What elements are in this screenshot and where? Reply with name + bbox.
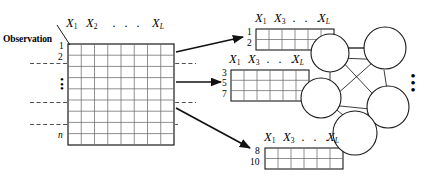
subset-2-header-x3: X3 [248,53,259,66]
subset-1-header-x1: X1 [255,12,266,25]
column-header-ellipsis: · · · [112,20,143,32]
subset-1-header-xl: XL [318,12,330,25]
row-label-2: 2 [58,53,63,63]
network-node [364,27,406,69]
subset-3-header-xl: XL [327,131,339,144]
subset-2-row-label-5: 5 [222,79,227,89]
subset-2-row-label-7: 7 [222,90,227,100]
subset-2-header-x1: X1 [229,53,240,66]
row-label-vertical-ellipsis: ••• [58,77,66,91]
arrow-to-subset-1 [176,37,243,52]
observation-matrix-grid [68,44,174,145]
network-node [333,111,377,155]
subset-1-header-x3: X3 [274,12,285,25]
subset-3-row-label-10: 10 [250,158,260,168]
arrow-to-subset-3 [176,108,250,148]
network-ellipsis: ••• [408,72,418,93]
column-header-xl: XL [152,17,164,30]
column-header-x2: X2 [86,17,97,30]
figure-canvas: Observation X1 X2 · · · XL 1 2 ••• n X1 … [0,0,421,177]
subset-3-header-x3: X3 [283,131,294,144]
observation-corner-label: Observation [3,35,52,45]
subset-3-header-x1: X1 [264,131,275,144]
subset-3-row-label-8: 8 [255,147,260,157]
subset-2-grid [231,70,309,101]
network-node [301,78,341,118]
network-node [311,34,349,72]
row-label-1: 1 [59,42,64,52]
row-label-n: n [58,131,63,141]
subset-1-row-label-2: 2 [247,39,252,49]
column-header-x1: X1 [66,17,77,30]
subset-1-row-label-1: 1 [247,28,252,38]
subset-3-grid [265,148,343,169]
subset-2-header-xl: XL [292,53,304,66]
